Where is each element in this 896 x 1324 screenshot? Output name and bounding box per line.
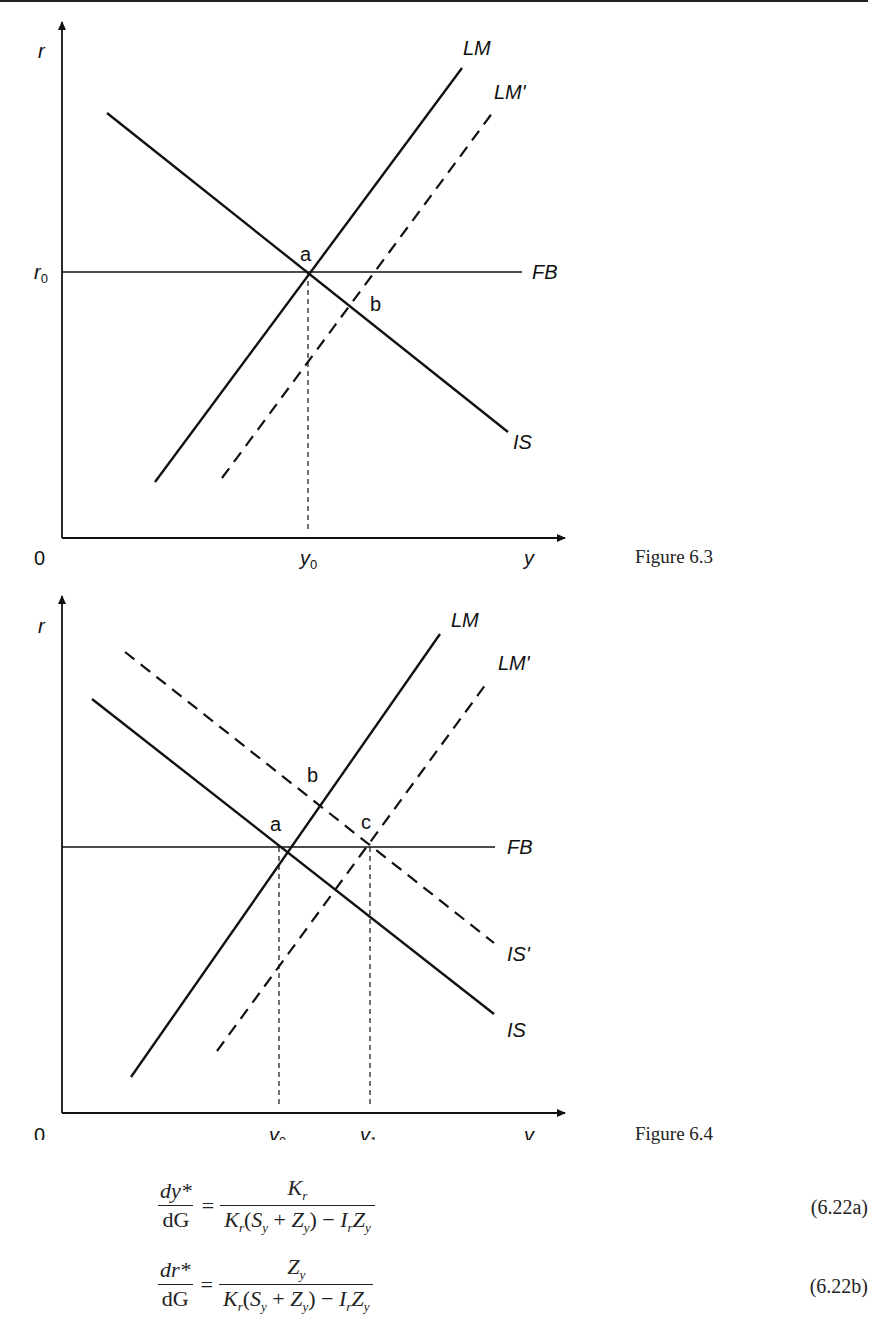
equation-number-6-22b: (6.22b) [810,1275,868,1298]
point-c-label: c [361,811,371,833]
y-axis-label: y [522,1124,535,1140]
lm-label: LM [451,609,479,631]
point-a-label: a [270,813,282,835]
point-a-label: a [300,243,312,265]
rhs-fraction: Zy Kr(Sy + Zy) − IrZy [219,1254,373,1316]
lm-prime-label: LM' [494,81,527,103]
equation-6-22a: dy* dG = Kr Kr(Sy + Zy) − IrZy [150,1175,381,1237]
figure-6-3: r r0 0 y0 y LM LM' IS FB a b [0,0,896,580]
lm-label: LM [463,37,491,59]
y-axis-label: y [522,547,535,569]
origin-label: 0 [34,1124,45,1140]
r0-label: r0 [34,261,48,286]
is-label: IS [507,1019,527,1041]
lhs-fraction: dr* dG [156,1257,195,1312]
point-b-label: b [370,293,381,315]
figure-6-3-caption: Figure 6.3 [635,546,713,568]
r-axis-label: r [38,615,46,637]
is-label: IS [513,431,533,453]
equals-sign: = [201,1272,213,1298]
y0-label: y0 [267,1124,286,1140]
is-prime-curve [125,652,494,943]
figure-6-4: r 0 y0 y1 y LM LM' IS' IS FB a b c [0,580,896,1140]
point-b-label: b [307,764,318,786]
is-curve [92,699,494,1014]
equals-sign: = [202,1193,214,1219]
y1-label: y1 [358,1124,377,1140]
denominator: Kr(Sy + Zy) − IrZy [219,1284,373,1315]
lm-prime-curve [217,684,486,1051]
equation-number-6-22a: (6.22a) [811,1196,868,1219]
rhs-fraction: Kr Kr(Sy + Zy) − IrZy [220,1175,374,1237]
lm-prime-label: LM' [498,652,531,674]
lm-prime-curve [222,112,493,478]
y0-label: y0 [298,547,317,572]
denominator: Kr(Sy + Zy) − IrZy [220,1205,374,1236]
fb-label: FB [507,836,533,858]
is-prime-label: IS' [507,943,531,965]
equation-6-22b: dr* dG = Zy Kr(Sy + Zy) − IrZy [150,1254,379,1316]
origin-label: 0 [34,547,45,569]
figure-6-4-caption: Figure 6.4 [635,1123,713,1145]
lm-curve [131,634,440,1077]
lhs-fraction: dy* dG [156,1178,196,1233]
r-axis-label: r [38,40,46,62]
fb-label: FB [532,261,558,283]
